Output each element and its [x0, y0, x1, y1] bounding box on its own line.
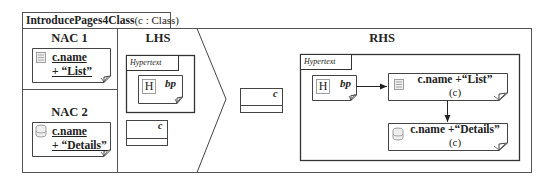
lhs-hypertext-label: Hypertext [130, 58, 162, 67]
middle-class-name: c [273, 88, 277, 99]
rhs-hypertext-label: Hypertext [304, 57, 336, 66]
rhs-home-icon-letter: H [316, 80, 330, 93]
rule-params: (c : Class) [134, 14, 179, 26]
rhs-home-page-name: bp [340, 77, 351, 89]
nac2-page-label: c.name + “Details” [52, 124, 107, 152]
nac1-page-label: c.name + “List” [52, 50, 92, 78]
nac2-title: NAC 2 [22, 105, 117, 120]
rhs-title: RHS [232, 31, 532, 46]
rhs-details-page-label: c.name +“Details” (c) [405, 123, 505, 149]
nac1-page-line2: + “List” [52, 64, 92, 78]
rhs-list-page-name: c.name +“List” [405, 73, 505, 86]
rhs-details-page-param: (c) [405, 136, 505, 149]
data-page-icon [36, 125, 46, 137]
list-page-icon [395, 80, 404, 90]
nac2-page-line1: c.name [52, 124, 107, 138]
nac1-page-line1: c.name [52, 50, 92, 64]
rhs-list-page-label: c.name +“List” (c) [405, 73, 505, 99]
data-page-icon [393, 128, 403, 140]
rhs-details-page-name: c.name +“Details” [405, 123, 505, 136]
list-page-icon [37, 53, 46, 63]
lhs-class-name: c [158, 120, 162, 131]
rule-name: IntroducePages4Class [26, 14, 134, 26]
lhs-home-page-name: bp [165, 77, 176, 89]
lhs-title: LHS [118, 31, 198, 46]
rule-title: IntroducePages4Class(c : Class) [26, 13, 179, 28]
lhs-rhs-chevron [197, 29, 226, 173]
lhs-home-icon-letter: H [142, 80, 156, 93]
rhs-list-page-param: (c) [405, 86, 505, 99]
nac2-page-line2: + “Details” [52, 138, 107, 152]
nac1-title: NAC 1 [22, 31, 117, 46]
